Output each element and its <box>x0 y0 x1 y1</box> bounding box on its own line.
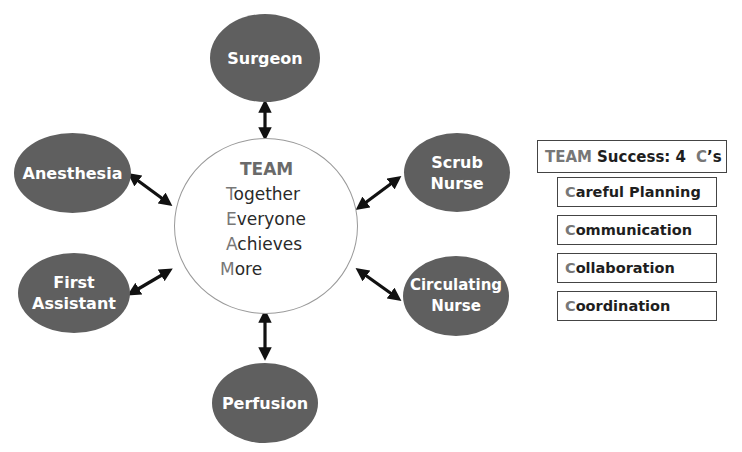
arrow-anesthesia <box>133 177 167 202</box>
hub-line-together: Together <box>226 182 306 207</box>
hub-line-everyone: Everyone <box>226 207 306 232</box>
hub-title: TEAM <box>226 157 306 182</box>
role-first-assistant: First Assistant <box>18 253 130 333</box>
role-anesthesia: Anesthesia <box>14 133 131 213</box>
c-item-careful-planning: Careful Planning <box>557 177 717 207</box>
hub-line-more: More <box>220 257 306 282</box>
success-panel-title: TEAM Success: 4 C’s <box>537 140 727 173</box>
team-acronym: TEAM Together Everyone Achieves More <box>226 157 306 282</box>
role-scrub-nurse: Scrub Nurse <box>404 133 510 212</box>
role-circulating-nurse: Circulating Nurse <box>403 256 509 336</box>
role-perfusion: Perfusion <box>212 363 318 443</box>
role-surgeon: Surgeon <box>210 14 320 102</box>
c-item-collaboration: Collaboration <box>557 253 717 283</box>
arrow-first-assistant <box>133 272 167 292</box>
c-item-communication: Communication <box>557 215 717 245</box>
arrow-circulating-nurse <box>361 272 396 297</box>
hub-line-achieves: Achieves <box>226 232 306 257</box>
arrow-scrub-nurse <box>361 180 396 206</box>
c-item-coordination: Coordination <box>557 291 717 321</box>
